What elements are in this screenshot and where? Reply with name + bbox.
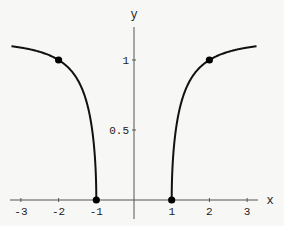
x-tick-label: 2 xyxy=(206,206,213,218)
x-tick-label: -1 xyxy=(90,206,104,218)
x-axis-label: x xyxy=(266,194,273,208)
data-point-marker xyxy=(55,56,62,63)
y-tick-label: 0.5 xyxy=(109,125,129,137)
chart: -3-2-11230.51xy xyxy=(0,0,284,226)
data-point-marker xyxy=(206,56,213,63)
right-branch-curve xyxy=(172,46,257,200)
y-axis-label: y xyxy=(130,8,137,22)
left-branch-curve xyxy=(11,46,96,200)
x-tick-label: 1 xyxy=(168,206,175,218)
axis-labels: -3-2-11230.51xy xyxy=(14,8,273,218)
data-point-marker xyxy=(168,196,175,203)
data-point-marker xyxy=(93,196,100,203)
axes xyxy=(10,27,258,219)
x-tick-label: -2 xyxy=(52,206,65,218)
x-tick-label: 3 xyxy=(244,206,251,218)
y-tick-label: 1 xyxy=(122,55,129,67)
x-tick-label: -3 xyxy=(14,206,27,218)
